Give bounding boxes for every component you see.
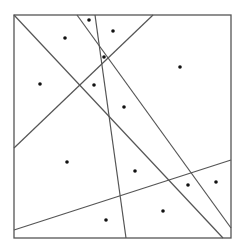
point-14 [104, 218, 108, 222]
line-group [14, 15, 231, 238]
line-diag-steep [77, 15, 231, 228]
point-group [38, 18, 218, 222]
point-12 [214, 180, 218, 184]
point-2 [111, 29, 115, 33]
point-13 [161, 209, 165, 213]
point-3 [63, 36, 67, 40]
bounding-square [14, 15, 231, 238]
point-1 [87, 18, 91, 22]
line-anti-diag [14, 15, 153, 148]
point-4 [102, 55, 106, 59]
diagram-canvas [0, 0, 242, 251]
line-near-vertical [95, 15, 126, 238]
point-10 [133, 169, 137, 173]
point-5 [178, 65, 182, 69]
line-low-rising [14, 160, 231, 230]
point-7 [92, 83, 96, 87]
point-8 [122, 105, 126, 109]
point-6 [38, 82, 42, 86]
point-11 [186, 183, 190, 187]
point-9 [65, 160, 69, 164]
